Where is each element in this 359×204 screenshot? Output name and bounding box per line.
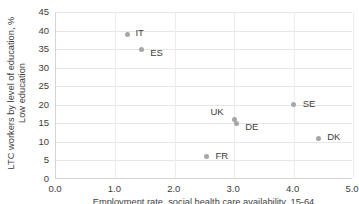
y-axis-tick-label: 40	[25, 26, 49, 36]
data-point-es	[139, 47, 144, 52]
y-axis-tick-label: 25	[25, 81, 49, 91]
y-axis-tick-label: 15	[25, 118, 49, 128]
gridline-vertical	[234, 12, 235, 178]
y-axis-tick-label: 35	[25, 44, 49, 54]
y-axis-tick-label: 10	[25, 137, 49, 147]
data-point-label-dk: DK	[327, 132, 340, 142]
y-axis-tick-label: 5	[25, 155, 49, 165]
x-axis-tick-label: 0.0	[40, 184, 70, 194]
data-point-de	[234, 121, 239, 126]
y-axis-tick-label: 45	[25, 7, 49, 17]
data-point-dk	[316, 136, 321, 141]
plot-area	[55, 12, 352, 179]
gridline-vertical	[115, 12, 116, 178]
data-point-label-se: SE	[303, 99, 316, 109]
gridline-horizontal	[56, 12, 352, 13]
x-axis-tick-label: 5.0	[337, 184, 359, 194]
gridline-horizontal	[56, 86, 352, 87]
data-point-it	[125, 32, 130, 37]
gridline-vertical	[175, 12, 176, 178]
x-axis-title: Employment rate, social health care avai…	[55, 197, 352, 204]
y-axis-tick-label: 0	[25, 174, 49, 184]
data-point-label-fr: FR	[215, 151, 228, 161]
data-point-label-uk: UK	[210, 107, 223, 117]
data-point-label-es: ES	[150, 48, 163, 58]
x-axis-tick-label: 3.0	[218, 184, 248, 194]
x-axis-tick-label: 2.0	[159, 184, 189, 194]
x-axis-tick-label: 4.0	[278, 184, 308, 194]
scatter-chart: 051015202530354045 0.01.02.03.04.05.0 IT…	[0, 0, 359, 204]
gridline-horizontal	[56, 142, 352, 143]
y-axis-tick-label: 20	[25, 100, 49, 110]
gridline-horizontal	[56, 31, 352, 32]
gridline-horizontal	[56, 160, 352, 161]
gridline-horizontal	[56, 123, 352, 124]
data-point-label-de: DE	[245, 122, 258, 132]
y-axis-tick-label: 30	[25, 63, 49, 73]
y-axis-title: LTC workers by level of education, % Low…	[6, 8, 28, 178]
gridline-horizontal	[56, 68, 352, 69]
gridline-vertical	[353, 12, 354, 178]
gridline-horizontal	[56, 49, 352, 50]
gridline-vertical	[294, 12, 295, 178]
x-axis-tick-label: 1.0	[99, 184, 129, 194]
data-point-label-it: IT	[135, 28, 143, 38]
